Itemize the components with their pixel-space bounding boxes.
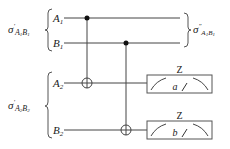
- input-brace-top: [45, 9, 52, 51]
- circuit-diagram: A1 B1 A2 B2 σ′A1B1 σ′A2B2 σ″A1B1 Z a Z b: [0, 0, 230, 149]
- wire-label-a1: A1: [52, 12, 63, 26]
- measurement-outcome-a2: a: [173, 81, 178, 92]
- measurement-outcome-b2: b: [173, 127, 178, 138]
- measurement-b2: [147, 121, 212, 139]
- cnot2-control-dot: [124, 41, 129, 46]
- measurement-basis-a2: Z: [176, 64, 182, 75]
- measurement-basis-b2: Z: [176, 110, 182, 121]
- output-brace: [184, 13, 191, 47]
- output-state-label: σ″A1B1: [193, 22, 215, 37]
- wire-label-b1: B1: [53, 37, 63, 51]
- input-brace-bottom: [45, 72, 52, 138]
- input-state-label-2: σ′A2B2: [8, 98, 30, 113]
- wire-label-b2: B2: [53, 124, 64, 138]
- wire-label-a2: A2: [52, 77, 64, 91]
- cnot1-control-dot: [85, 16, 90, 21]
- input-state-label-1: σ′A1B1: [8, 22, 30, 37]
- measurement-a2: [147, 75, 212, 93]
